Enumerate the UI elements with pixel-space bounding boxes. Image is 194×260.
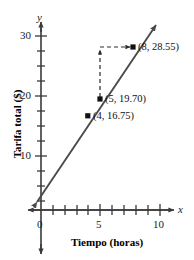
x-axis-variable-label: x [178,204,183,215]
point-label-4: (4, 16.75) [93,111,134,122]
x-axis-title: Tiempo (horas) [42,236,172,248]
point-label-8: (8, 28.55) [138,42,179,53]
x-axis [28,204,174,216]
point-marker-5 [97,96,102,101]
x-tick-label-5: 5 [96,219,102,230]
y-tick-label-30: 30 [20,30,31,41]
point-label-5: (5, 19.70) [105,94,146,105]
data-point-markers [85,44,135,118]
point-marker-8 [130,44,135,49]
x-tick-label-0: 0 [37,219,43,230]
x-tick-label-10: 10 [153,219,164,230]
y-axis-title: Tarifa total ($) [11,69,23,179]
y-axis-variable-label: y [37,12,42,23]
graph-figure: 30 20 10 0 5 10 x y (8, 28.55) (5, 19.70… [0,0,194,260]
point-marker-4 [85,113,90,118]
